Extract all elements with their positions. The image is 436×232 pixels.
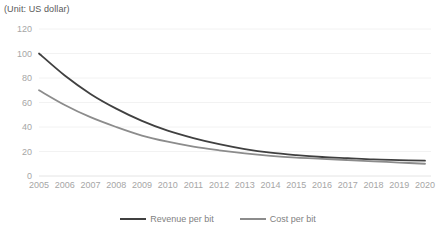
y-axis-tick-labels: 020406080100120: [17, 24, 32, 181]
x-axis-tick-labels: 2005200620072008200920102011201220132014…: [29, 180, 435, 190]
legend-line-swatch: [120, 218, 146, 220]
x-axis-tick-label: 2015: [286, 180, 306, 190]
x-axis-tick-label: 2017: [338, 180, 358, 190]
x-axis-tick-label: 2018: [364, 180, 384, 190]
x-axis-tick-label: 2009: [132, 180, 152, 190]
chart-legend: Revenue per bitCost per bit: [0, 214, 436, 224]
series-line: [39, 54, 425, 161]
legend-entry[interactable]: Cost per bit: [240, 214, 316, 224]
x-axis-tick-label: 2016: [312, 180, 332, 190]
x-axis-tick-label: 2007: [80, 180, 100, 190]
line-chart-figure: (Unit: US dollar) 020406080100120 200520…: [0, 0, 436, 232]
gridlines: [39, 29, 431, 176]
x-axis-tick-label: 2013: [235, 180, 255, 190]
y-axis-tick-label: 80: [22, 73, 32, 83]
y-axis-tick-label: 60: [22, 98, 32, 108]
legend-entry[interactable]: Revenue per bit: [120, 214, 214, 224]
x-axis-tick-label: 2005: [29, 180, 49, 190]
legend-line-swatch: [240, 218, 266, 220]
x-axis-tick-label: 2014: [261, 180, 281, 190]
legend-label: Cost per bit: [270, 214, 316, 224]
plot-area: 020406080100120 200520062007200820092010…: [0, 0, 436, 232]
x-axis-tick-label: 2010: [158, 180, 178, 190]
y-axis-tick-label: 120: [17, 24, 32, 34]
x-axis-tick-label: 2006: [55, 180, 75, 190]
legend-label: Revenue per bit: [150, 214, 214, 224]
y-axis-tick-label: 40: [22, 122, 32, 132]
data-series-lines: [39, 54, 425, 164]
x-axis-tick-label: 2012: [209, 180, 229, 190]
y-axis-tick-label: 20: [22, 147, 32, 157]
x-axis-tick-label: 2020: [415, 180, 435, 190]
x-axis-tick-label: 2019: [389, 180, 409, 190]
x-axis-tick-label: 2008: [106, 180, 126, 190]
y-axis-tick-label: 100: [17, 49, 32, 59]
x-axis-tick-label: 2011: [184, 180, 203, 190]
